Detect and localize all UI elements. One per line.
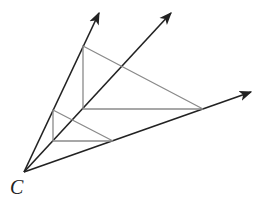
- vertex-label-c: C: [10, 176, 23, 199]
- large-triangle: [83, 46, 203, 109]
- ray-1: [24, 13, 99, 172]
- small-triangle: [53, 110, 113, 141]
- ray-2: [24, 13, 171, 172]
- geometry-figure: [0, 0, 271, 210]
- ray-3: [24, 92, 251, 172]
